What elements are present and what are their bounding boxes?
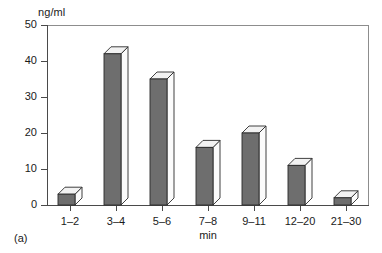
x-axis-tick xyxy=(300,206,301,211)
x-axis-tick-label: 9–11 xyxy=(229,215,279,227)
y-axis-line xyxy=(47,25,48,206)
bar-front-face xyxy=(334,198,351,205)
bar[interactable] xyxy=(242,126,266,205)
x-axis-tick xyxy=(346,206,347,211)
x-axis-title: min xyxy=(148,229,268,241)
bar[interactable] xyxy=(150,72,174,205)
x-axis-tick xyxy=(70,206,71,211)
bar-side-face xyxy=(213,140,220,205)
bar[interactable] xyxy=(104,47,128,205)
x-axis-tick xyxy=(162,206,163,211)
x-axis-tick xyxy=(254,206,255,211)
y-axis-tick-label: 40 xyxy=(8,55,37,66)
bar-side-face xyxy=(259,126,266,205)
x-axis-tick-label: 1–2 xyxy=(45,215,95,227)
y-axis-unit-label: ng/ml xyxy=(38,6,65,19)
y-axis-tick-label: 0 xyxy=(8,199,37,210)
bar-side-face xyxy=(167,72,174,205)
bar-front-face xyxy=(104,54,121,205)
bar-side-face xyxy=(121,47,128,205)
x-axis-tick-label: 5–6 xyxy=(137,215,187,227)
x-axis-tick-label: 3–4 xyxy=(91,215,141,227)
x-axis-tick xyxy=(116,206,117,211)
x-axis-tick xyxy=(208,206,209,211)
y-axis-tick xyxy=(41,61,47,62)
y-axis-tick-label: 50 xyxy=(8,19,37,30)
y-axis-tick-label: 10 xyxy=(8,163,37,174)
x-axis-tick-label: 12–20 xyxy=(275,215,325,227)
bar-front-face xyxy=(150,79,167,205)
x-axis-tick-label: 7–8 xyxy=(183,215,233,227)
bar-side-face xyxy=(305,158,312,205)
y-axis-tick xyxy=(41,25,47,26)
bar-front-face xyxy=(196,147,213,205)
x-axis-tick-label: 21–30 xyxy=(321,215,371,227)
bar-front-face xyxy=(242,133,259,205)
y-axis-tick xyxy=(41,133,47,134)
figure-panel: ng/ml 01020304050 1–23–45–67–89–1112–202… xyxy=(0,0,382,253)
y-axis-tick-label: 20 xyxy=(8,127,37,138)
bar-front-face xyxy=(288,165,305,205)
bar-front-face xyxy=(58,194,75,205)
y-axis-tick xyxy=(41,97,47,98)
y-axis-tick-label: 30 xyxy=(8,91,37,102)
figure-sub-label: (a) xyxy=(14,232,27,244)
y-axis-tick xyxy=(41,205,47,206)
bar[interactable] xyxy=(288,158,312,205)
y-axis-tick xyxy=(41,169,47,170)
bar[interactable] xyxy=(196,140,220,205)
